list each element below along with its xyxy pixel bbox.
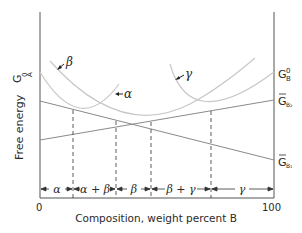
svg-text:0: 0	[21, 73, 29, 77]
phase-beta-gamma: β + γ	[165, 183, 196, 196]
free-energy-diagram: α α + β β β + γ γ β α γ G A 0 Free energ…	[0, 0, 302, 233]
beta-curve-label: β	[57, 55, 73, 70]
tangent-GB2	[40, 100, 274, 140]
svg-text:0: 0	[286, 67, 290, 75]
gamma-curve-label: γ	[175, 67, 193, 81]
svg-text:B₂: B₂	[286, 101, 293, 108]
svg-text:B: B	[286, 75, 291, 83]
alpha-curve-label: α	[115, 87, 132, 101]
svg-text:β: β	[65, 55, 73, 69]
phase-beta: β	[130, 183, 137, 196]
phase-alpha: α	[53, 183, 61, 196]
svg-text:γ: γ	[185, 67, 193, 81]
y-axis-label: Free energy	[13, 94, 26, 160]
x-axis-label: Composition, weight percent B	[75, 212, 237, 224]
phase-alpha-beta: α + β	[80, 183, 110, 196]
alpha-curve	[40, 72, 119, 108]
label-GB1: G B₁	[278, 155, 293, 169]
label-GB0: G B 0	[278, 67, 291, 83]
tangent-GB1	[40, 101, 274, 160]
label-GB2: G B₂	[278, 94, 293, 108]
x-tick-0: 0	[36, 202, 42, 213]
beta-curve	[50, 58, 255, 115]
label-GA0: G A 0	[11, 72, 34, 83]
x-tick-100: 100	[262, 202, 281, 213]
phase-gamma: γ	[239, 183, 246, 196]
svg-text:α: α	[124, 87, 132, 101]
svg-text:B₁: B₁	[286, 162, 293, 169]
